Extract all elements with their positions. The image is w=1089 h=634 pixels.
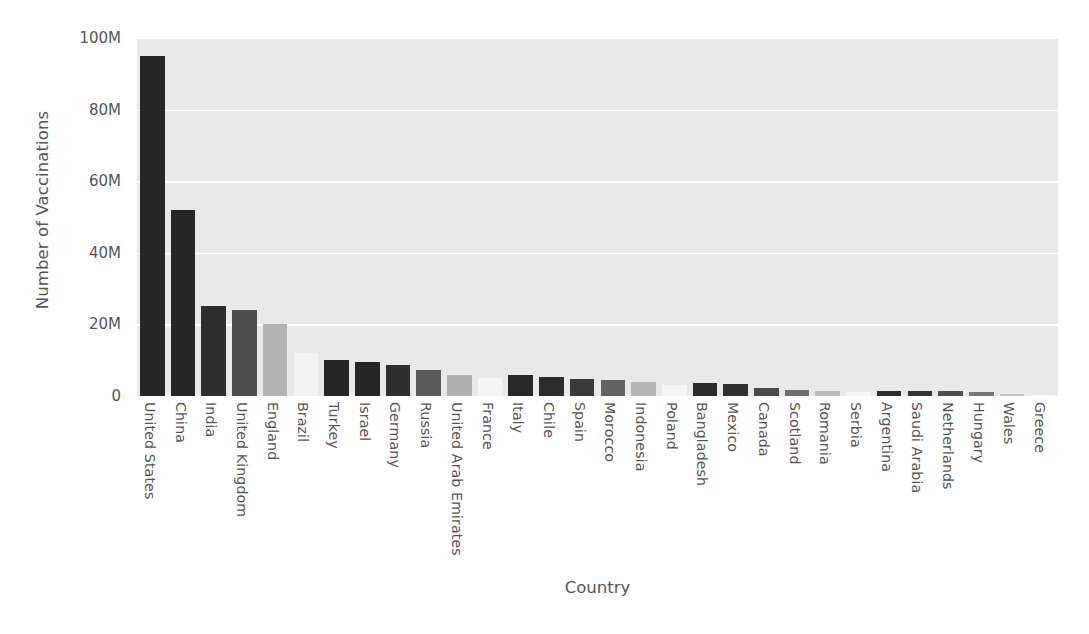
x-axis-tick-label: Saudi Arabia	[909, 402, 925, 493]
y-axis-tick-label: 60M	[89, 172, 121, 190]
x-axis-tick-label: France	[480, 402, 496, 450]
x-axis-tick-label: Israel	[357, 402, 373, 441]
bar	[201, 306, 226, 396]
x-axis-title: Country	[137, 578, 1058, 597]
plot-area	[137, 38, 1058, 396]
bar	[539, 377, 564, 396]
x-axis-tick-label: Argentina	[879, 402, 895, 472]
bar-series	[137, 38, 1058, 396]
bar	[478, 378, 503, 396]
bar	[171, 210, 196, 396]
x-axis-tick-label: Romania	[817, 402, 833, 465]
x-axis-tick-label: Netherlands	[940, 402, 956, 490]
bar	[601, 380, 626, 396]
y-axis-tick-label: 80M	[89, 101, 121, 119]
x-axis-tick-label: Mexico	[725, 402, 741, 452]
bar	[723, 384, 748, 396]
bar-chart-figure: Number of Vaccinations 020M40M60M80M100M…	[0, 0, 1089, 634]
x-axis-tick-label: Italy	[510, 402, 526, 433]
x-axis-tick-label: Scotland	[787, 402, 803, 464]
x-axis-tick-label: Morocco	[602, 402, 618, 462]
y-axis-tick-label: 100M	[79, 29, 121, 47]
y-axis-tick-label: 20M	[89, 315, 121, 333]
x-axis-tick-label: Chile	[541, 402, 557, 438]
x-axis-tick-label: United Kingdom	[234, 402, 250, 517]
x-axis-tick-label: Poland	[664, 402, 680, 450]
bar	[386, 365, 411, 396]
x-axis-tick-label: Russia	[418, 402, 434, 448]
bar	[570, 379, 595, 396]
y-axis-tick-label: 0	[111, 387, 121, 405]
bar	[140, 56, 165, 396]
x-axis-tick-label: Indonesia	[633, 402, 649, 472]
bar	[232, 310, 257, 396]
x-axis-tick-label: Germany	[387, 402, 403, 468]
x-axis-tick-label: Hungary	[971, 402, 987, 463]
bar	[508, 375, 533, 396]
bar	[447, 375, 472, 396]
x-axis-tick-label: Wales	[1001, 402, 1017, 444]
x-axis-tick-label: India	[203, 402, 219, 437]
x-axis-tick-label: United States	[142, 402, 158, 499]
bar	[263, 324, 288, 396]
x-axis-tick-labels: United StatesChinaIndiaUnited KingdomEng…	[137, 396, 1058, 576]
bar	[324, 360, 349, 396]
x-axis-tick-label: United Arab Emirates	[449, 402, 465, 556]
bar	[754, 388, 779, 396]
x-axis-tick-label: Canada	[756, 402, 772, 457]
x-axis-tick-label: Brazil	[295, 402, 311, 442]
x-axis-tick-label: England	[265, 402, 281, 460]
bar	[662, 385, 687, 396]
y-axis-tick-label: 40M	[89, 244, 121, 262]
bar	[693, 383, 718, 396]
x-axis-tick-label: Bangladesh	[694, 402, 710, 486]
y-axis-tick-labels: 020M40M60M80M100M	[0, 0, 129, 634]
bar	[294, 353, 319, 396]
bar	[355, 362, 380, 396]
x-axis-tick-label: Turkey	[326, 402, 342, 449]
x-axis-tick-label: Spain	[572, 402, 588, 442]
bar	[631, 382, 656, 396]
x-axis-tick-label: China	[173, 402, 189, 443]
x-axis-tick-label: Greece	[1032, 402, 1048, 453]
x-axis-tick-label: Serbia	[848, 402, 864, 448]
bar	[416, 370, 441, 396]
